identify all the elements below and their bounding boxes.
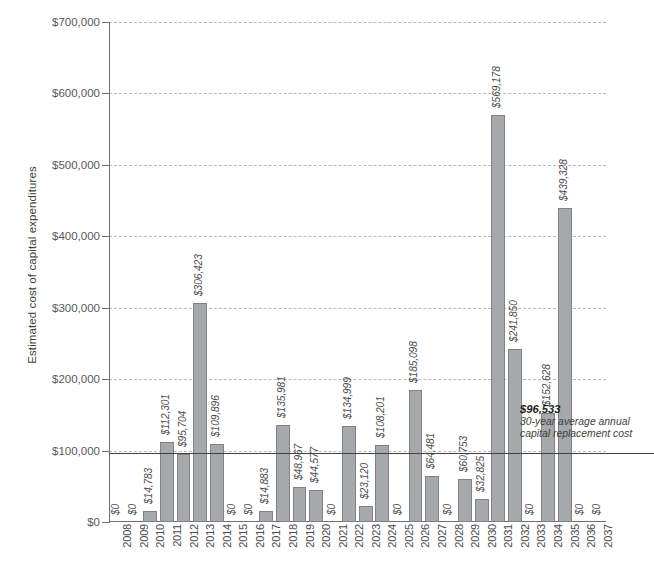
x-tick-label: 2033	[535, 524, 547, 548]
x-tick-label: 2020	[320, 524, 332, 548]
bar-slot[interactable]: $439,328	[556, 22, 573, 522]
x-tick-label: 2011	[171, 524, 183, 547]
bar-slot[interactable]: $0	[573, 22, 590, 522]
bar-slot[interactable]: $32,825	[473, 22, 490, 522]
y-axis-tick-labels: $0$100,000$200,000$300,000$400,000$500,0…	[26, 0, 100, 572]
capital-expenditures-bar-chart: Estimated cost of capital expenditures $…	[0, 0, 654, 572]
bar[interactable]	[210, 444, 224, 522]
bar[interactable]	[193, 303, 207, 522]
bar-value-label: $32,825	[475, 455, 486, 491]
bar-slot[interactable]: $0	[523, 22, 540, 522]
bar[interactable]	[458, 479, 472, 522]
bar-slot[interactable]: $0	[391, 22, 408, 522]
bar-slot[interactable]: $60,753	[457, 22, 474, 522]
bar-value-label: $0	[226, 504, 237, 515]
bar[interactable]	[375, 445, 389, 522]
bar-slot[interactable]: $108,201	[374, 22, 391, 522]
x-tick-label: 2024	[386, 524, 398, 548]
bar-value-label: $0	[442, 504, 453, 515]
x-tick-label: 2034	[552, 524, 564, 548]
bar[interactable]	[143, 511, 157, 522]
bar-value-label: $0	[574, 504, 585, 515]
bar[interactable]	[558, 208, 572, 522]
bar-value-label: $14,883	[259, 468, 270, 504]
bar-value-label: $185,098	[408, 341, 419, 383]
plot-area: $0$0$14,783$112,301$95,704$306,423$109,8…	[109, 22, 606, 522]
x-tick-label: 2017	[270, 524, 282, 548]
bar-slot[interactable]: $0	[440, 22, 457, 522]
x-tick-label: 2018	[287, 524, 299, 548]
bar-slot[interactable]: $0	[324, 22, 341, 522]
x-tick-label: 2025	[403, 524, 415, 548]
x-axis-tick-labels: 2008200920102011201220132014201520162017…	[109, 524, 606, 572]
bar[interactable]	[475, 499, 489, 522]
bar-slot[interactable]: $14,883	[258, 22, 275, 522]
bar-value-label: $14,783	[143, 468, 154, 504]
x-tick-label: 2021	[337, 524, 349, 548]
threshold-annotation-description: 30-year average annual capital replaceme…	[520, 416, 648, 440]
bar-slot[interactable]: $306,423	[192, 22, 209, 522]
x-tick-label: 2027	[436, 524, 448, 548]
bar-slot[interactable]: $14,783	[142, 22, 159, 522]
bar[interactable]	[409, 390, 423, 522]
bar-slot[interactable]: $569,178	[490, 22, 507, 522]
x-tick-label: 2008	[121, 524, 133, 548]
bar-value-label: $135,981	[276, 376, 287, 418]
bar[interactable]	[359, 506, 373, 523]
x-tick-label: 2037	[602, 524, 614, 548]
bar-slot[interactable]: $0	[589, 22, 606, 522]
x-tick-label: 2031	[502, 524, 514, 548]
bar-value-label: $241,850	[508, 301, 519, 343]
x-tick-label: 2015	[237, 524, 249, 548]
bar-slot[interactable]: $241,850	[507, 22, 524, 522]
x-tick-label: 2009	[138, 524, 150, 548]
bar[interactable]	[425, 476, 439, 522]
bar-slot[interactable]: $23,120	[358, 22, 375, 522]
bar[interactable]	[309, 490, 323, 522]
x-tick-label: 2010	[154, 524, 166, 548]
y-tick-label: $100,000	[26, 445, 100, 457]
bar-slot[interactable]: $48,967	[291, 22, 308, 522]
x-tick-label: 2035	[569, 524, 581, 548]
bar-value-label: $0	[110, 504, 121, 515]
bar-value-label: $0	[243, 504, 254, 515]
bar-value-label: $0	[326, 504, 337, 515]
bar[interactable]	[177, 454, 191, 522]
bar-value-label: $0	[524, 504, 535, 515]
bar-slot[interactable]: $135,981	[275, 22, 292, 522]
bar-slot[interactable]: $152,628	[540, 22, 557, 522]
bar-value-label: $23,120	[359, 462, 370, 498]
bar[interactable]	[259, 511, 273, 522]
bar-value-label: $95,704	[177, 411, 188, 447]
x-tick-label: 2023	[370, 524, 382, 548]
bar-value-label: $64,481	[425, 433, 436, 469]
bar-slot[interactable]: $44,577	[308, 22, 325, 522]
bar-slot[interactable]: $134,999	[341, 22, 358, 522]
y-tick-label: $400,000	[26, 230, 100, 242]
bar-slot[interactable]: $0	[126, 22, 143, 522]
y-tick-label: $600,000	[26, 87, 100, 99]
bar[interactable]	[276, 425, 290, 522]
y-tick-label: $300,000	[26, 302, 100, 314]
x-tick-label: 2012	[188, 524, 200, 548]
bar-slot[interactable]: $0	[242, 22, 259, 522]
bar-slot[interactable]: $64,481	[424, 22, 441, 522]
bar-value-label: $108,201	[375, 396, 386, 438]
bar[interactable]	[293, 487, 307, 522]
bar-slot[interactable]: $112,301	[159, 22, 176, 522]
bar[interactable]	[342, 426, 356, 522]
bars-layer: $0$0$14,783$112,301$95,704$306,423$109,8…	[109, 22, 606, 522]
bar-value-label: $0	[127, 504, 138, 515]
x-tick-label: 2032	[519, 524, 531, 548]
bar-value-label: $439,328	[558, 160, 569, 202]
bar-slot[interactable]: $0	[225, 22, 242, 522]
bar-slot[interactable]: $0	[109, 22, 126, 522]
bar[interactable]	[491, 115, 505, 522]
bar-slot[interactable]: $185,098	[407, 22, 424, 522]
bar-slot[interactable]: $95,704	[175, 22, 192, 522]
threshold-annotation-value: $96,533	[520, 403, 648, 415]
threshold-line-extension	[606, 453, 654, 454]
y-tick-label: $0	[26, 516, 100, 528]
bar-value-label: $152,628	[541, 364, 552, 406]
bar-slot[interactable]: $109,896	[208, 22, 225, 522]
